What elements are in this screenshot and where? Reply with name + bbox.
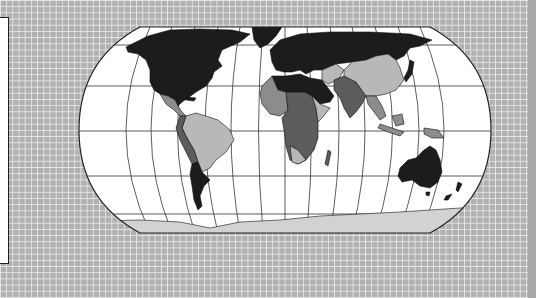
tasmania (426, 192, 430, 196)
caribbean (186, 97, 196, 101)
world-map-svg (0, 0, 536, 298)
world-map (0, 0, 536, 298)
